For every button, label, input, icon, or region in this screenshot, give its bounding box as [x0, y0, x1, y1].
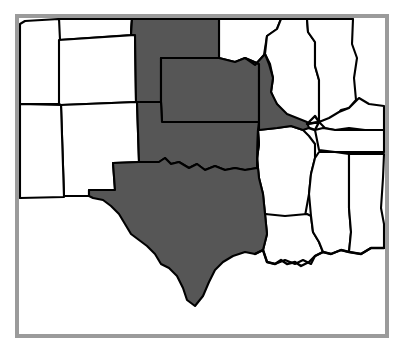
- state-colorado[interactable]: [59, 35, 136, 105]
- map-frame: [15, 14, 389, 338]
- screenshot-root: [0, 0, 409, 352]
- us-region-map[interactable]: [19, 18, 385, 334]
- state-alabama[interactable]: [349, 154, 384, 254]
- state-kansas[interactable]: [161, 58, 259, 122]
- state-utah[interactable]: [20, 19, 60, 104]
- state-arkansas[interactable]: [257, 126, 315, 216]
- state-arizona[interactable]: [20, 104, 64, 198]
- state-tennessee[interactable]: [315, 128, 384, 152]
